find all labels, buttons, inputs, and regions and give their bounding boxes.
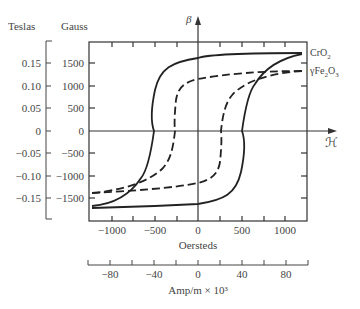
series-gamma-fe2o3 (92, 71, 302, 193)
tesla-tick: 0.15 (22, 57, 42, 69)
tesla-tick: −0.05 (16, 147, 42, 159)
oersted-tick: 500 (234, 224, 251, 236)
gauss-tick: −1000 (56, 170, 85, 182)
ampm-axis-label: Amp/m × 10³ (168, 284, 228, 296)
gauss-tick: −1500 (56, 192, 85, 204)
tesla-axis (46, 41, 52, 219)
center-axes (89, 20, 333, 221)
ampm-axis (88, 260, 308, 265)
ampm-tick: 0 (195, 268, 201, 280)
tesla-tick: 0 (36, 125, 42, 137)
tesla-tick: 0.05 (22, 102, 42, 114)
beta-symbol: β (185, 13, 192, 25)
oersteds-axis-label: Oersteds (179, 239, 218, 251)
legend-cro2: CrO2 (310, 47, 331, 61)
gauss-tick: 1500 (62, 57, 85, 69)
gauss-tick: 0 (79, 125, 85, 137)
ampm-tick: −40 (145, 268, 163, 280)
teslas-axis-title: Teslas (8, 20, 35, 32)
gauss-tick: −500 (61, 147, 84, 159)
tesla-tick: 0.10 (22, 80, 42, 92)
ampm-tick: 40 (237, 268, 249, 280)
ampm-tick: −80 (101, 268, 119, 280)
legend-gamma-fe2o3: γFe2O3 (309, 65, 339, 79)
y-arrow-icon (195, 16, 201, 25)
ampm-tick: 80 (281, 268, 293, 280)
oersted-tick: 0 (195, 224, 201, 236)
hysteresis-chart: Teslas Gauss 0.15 0.10 0.05 0 −0.05 −0.1… (0, 0, 360, 309)
x-arrow-icon (328, 128, 337, 134)
tesla-tick: −0.15 (16, 192, 42, 204)
h-field-symbol: ℋ (325, 135, 338, 150)
oersted-tick: −500 (144, 224, 167, 236)
oersted-tick: −1000 (98, 224, 127, 236)
gauss-tick: 500 (68, 102, 85, 114)
gauss-axis-title: Gauss (61, 20, 88, 32)
gauss-tick: 1000 (62, 80, 85, 92)
tesla-tick: −0.10 (16, 170, 42, 182)
oersted-tick: 1000 (274, 224, 297, 236)
